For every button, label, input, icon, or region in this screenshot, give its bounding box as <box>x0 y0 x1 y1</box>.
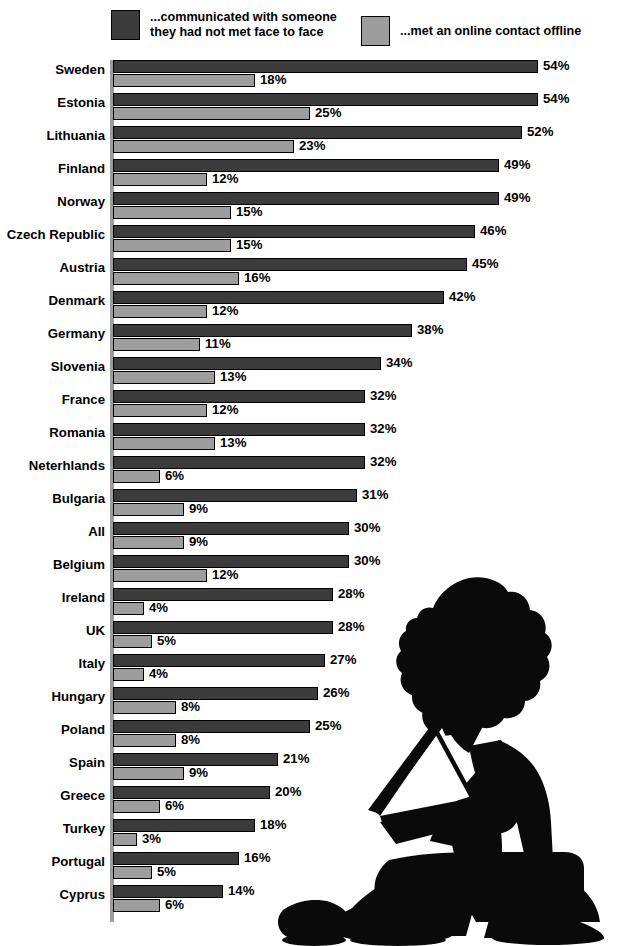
bar-row: Greece20%6% <box>0 783 623 816</box>
bar-value-label: 32% <box>370 454 396 469</box>
bar-fill <box>113 371 215 384</box>
category-label: Belgium <box>0 557 105 572</box>
bar-fill <box>113 720 310 733</box>
bar-value-label: 54% <box>543 58 569 73</box>
bar-fill <box>113 239 231 252</box>
bar-fill <box>113 687 318 700</box>
bar-row: Turkey18%3% <box>0 816 623 849</box>
bar-value-label: 38% <box>417 322 443 337</box>
bar-fill <box>113 522 349 535</box>
legend-item-met-offline: ...met an online contact offline <box>361 16 581 46</box>
bar-fill <box>113 654 325 667</box>
bar-value-label: 45% <box>472 256 498 271</box>
bar-fill <box>113 489 357 502</box>
bar-communicated: 30% <box>113 522 349 535</box>
bar-value-label: 28% <box>338 619 364 634</box>
bar-fill <box>113 569 207 582</box>
bar-row: UK28%5% <box>0 618 623 651</box>
legend-label-communicated: ...communicated with someone they had no… <box>150 10 337 40</box>
category-label: Italy <box>0 656 105 671</box>
bar-value-label: 3% <box>142 831 161 846</box>
bar-value-label: 42% <box>449 289 475 304</box>
bar-row: Romania32%13% <box>0 420 623 453</box>
bar-value-label: 11% <box>205 336 231 351</box>
bar-row: Finland49%12% <box>0 156 623 189</box>
bar-fill <box>113 588 333 601</box>
bar-fill <box>113 206 231 219</box>
bar-fill <box>113 272 239 285</box>
category-label: Greece <box>0 788 105 803</box>
bar-value-label: 31% <box>362 487 388 502</box>
bar-fill <box>113 767 184 780</box>
bar-value-label: 9% <box>189 765 208 780</box>
bar-fill <box>113 602 144 615</box>
bar-fill <box>113 819 255 832</box>
bar-row: Norway49%15% <box>0 189 623 222</box>
bar-communicated: 32% <box>113 390 365 403</box>
light-swatch-icon <box>361 16 390 46</box>
bar-communicated: 54% <box>113 60 538 73</box>
bar-value-label: 21% <box>283 751 309 766</box>
bar-met-offline: 9% <box>113 767 184 780</box>
category-label: Bulgaria <box>0 491 105 506</box>
bar-met-offline: 15% <box>113 239 231 252</box>
bar-row: Cyprus14%6% <box>0 882 623 915</box>
bar-value-label: 49% <box>504 190 530 205</box>
bar-communicated: 20% <box>113 786 270 799</box>
bar-row: Hungary26%8% <box>0 684 623 717</box>
bar-row: Germany38%11% <box>0 321 623 354</box>
bar-row: All30%9% <box>0 519 623 552</box>
bar-met-offline: 4% <box>113 668 144 681</box>
bar-fill <box>113 734 176 747</box>
bar-fill <box>113 786 270 799</box>
bar-value-label: 9% <box>189 501 208 516</box>
bar-value-label: 16% <box>244 270 270 285</box>
bar-met-offline: 12% <box>113 305 207 318</box>
bar-communicated: 42% <box>113 291 444 304</box>
bar-fill <box>113 899 160 912</box>
bar-fill <box>113 503 184 516</box>
category-label: Spain <box>0 755 105 770</box>
bar-value-label: 18% <box>260 817 286 832</box>
bar-row: Belgium30%12% <box>0 552 623 585</box>
chart-page: ...communicated with someone they had no… <box>0 0 623 946</box>
bar-communicated: 49% <box>113 192 499 205</box>
dark-swatch-icon <box>111 10 140 40</box>
bar-row: Ireland28%4% <box>0 585 623 618</box>
bar-value-label: 46% <box>480 223 506 238</box>
bar-value-label: 49% <box>504 157 530 172</box>
bar-value-label: 52% <box>527 124 553 139</box>
bar-communicated: 49% <box>113 159 499 172</box>
bar-communicated: 32% <box>113 456 365 469</box>
bar-value-label: 32% <box>370 421 396 436</box>
bar-value-label: 27% <box>330 652 356 667</box>
bar-met-offline: 8% <box>113 734 176 747</box>
bar-fill <box>113 621 333 634</box>
bar-met-offline: 15% <box>113 206 231 219</box>
bar-fill <box>113 800 160 813</box>
bar-row: France32%12% <box>0 387 623 420</box>
bar-value-label: 16% <box>244 850 270 865</box>
category-label: Finland <box>0 161 105 176</box>
bar-met-offline: 16% <box>113 272 239 285</box>
bar-value-label: 13% <box>220 435 246 450</box>
bar-value-label: 6% <box>165 798 184 813</box>
bar-met-offline: 3% <box>113 833 137 846</box>
category-label: Germany <box>0 326 105 341</box>
bar-value-label: 5% <box>157 633 176 648</box>
bar-fill <box>113 390 365 403</box>
bar-communicated: 27% <box>113 654 325 667</box>
bar-fill <box>113 324 412 337</box>
bar-communicated: 18% <box>113 819 255 832</box>
bar-communicated: 31% <box>113 489 357 502</box>
bar-row: Estonia54%25% <box>0 90 623 123</box>
category-label: Neterhlands <box>0 458 105 473</box>
bar-met-offline: 12% <box>113 569 207 582</box>
bar-fill <box>113 107 310 120</box>
bar-row: Neterhlands32%6% <box>0 453 623 486</box>
bar-value-label: 8% <box>181 732 200 747</box>
bar-met-offline: 6% <box>113 470 160 483</box>
bar-met-offline: 12% <box>113 404 207 417</box>
bar-communicated: 25% <box>113 720 310 733</box>
bar-fill <box>113 258 467 271</box>
